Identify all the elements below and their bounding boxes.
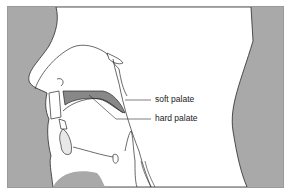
soft-palate-label: soft palate <box>155 94 194 104</box>
hard-palate-label: hard palate <box>155 113 198 123</box>
head-cross-section <box>8 7 283 187</box>
hyoid <box>113 154 118 163</box>
upper-teeth <box>49 91 61 119</box>
head-profile <box>29 7 253 187</box>
diagram-frame: soft palate hard palate <box>7 6 284 188</box>
